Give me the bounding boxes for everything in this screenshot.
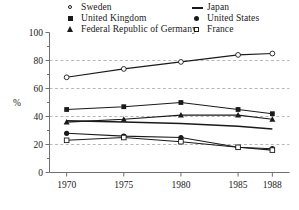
chart-container: Sweden United Kingdom Federal Republic o… [0, 0, 299, 210]
y-axis-tick-label: 40 [34, 112, 44, 122]
x-axis-tick-label: 1975 [114, 180, 133, 190]
y-axis-tick-label: 0 [38, 168, 43, 178]
data-point-marker [270, 51, 275, 56]
data-point-marker [236, 145, 241, 150]
plot-area: 020406080100%19701975198019851988 [0, 0, 299, 210]
x-axis-tick-label: 1988 [263, 180, 282, 190]
y-axis-tick-label: 80 [34, 56, 44, 66]
data-point-marker [64, 131, 69, 136]
data-point-marker [121, 135, 126, 140]
y-axis-title: % [13, 98, 21, 108]
y-axis-tick-label: 60 [34, 84, 44, 94]
data-point-marker [121, 104, 126, 109]
series-sweden [64, 51, 275, 80]
data-point-marker [270, 148, 275, 153]
data-point-marker [121, 67, 126, 72]
series-japan [67, 121, 273, 129]
data-point-marker [64, 75, 69, 80]
y-axis-tick-label: 20 [34, 140, 44, 150]
series-france [64, 135, 274, 152]
data-point-marker [270, 111, 275, 116]
series-line [67, 138, 273, 151]
data-point-marker [236, 53, 241, 58]
series-united-kingdom [64, 100, 275, 116]
series-line [67, 121, 273, 129]
data-point-marker [236, 107, 241, 112]
data-point-marker [64, 138, 69, 143]
data-point-marker [64, 107, 69, 112]
series-line [67, 54, 273, 78]
series-line [67, 103, 273, 114]
data-point-marker [179, 60, 184, 65]
data-point-marker [179, 139, 184, 144]
x-axis-tick-label: 1980 [171, 180, 190, 190]
x-axis-tick-label: 1970 [57, 180, 76, 190]
x-axis-tick-label: 1985 [229, 180, 248, 190]
data-point-marker [179, 100, 184, 105]
y-axis-tick-label: 100 [29, 28, 44, 38]
